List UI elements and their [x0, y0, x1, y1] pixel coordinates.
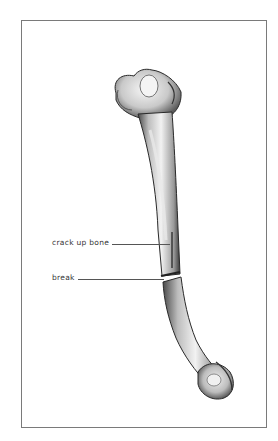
leader-line-crack [112, 244, 170, 245]
lower-bone-end [198, 362, 233, 399]
upper-shaft [138, 112, 180, 276]
label-crack-up-bone: crack up bone [52, 238, 109, 247]
leader-line-break [78, 279, 164, 280]
label-break: break [52, 273, 75, 282]
bone-illustration [0, 0, 278, 441]
